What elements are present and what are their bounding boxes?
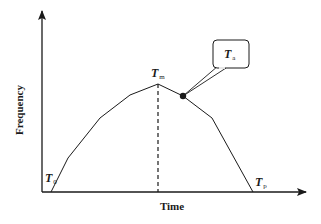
y-axis-label: Frequency: [14, 85, 25, 135]
callout-label: Ta: [224, 48, 235, 62]
frequency-time-diagram: [0, 0, 321, 224]
x-axis-label: Time: [160, 201, 184, 212]
start-time-label: T0: [45, 172, 57, 186]
callout-point-marker: [180, 93, 186, 99]
end-time-label: Tp: [255, 176, 267, 190]
peak-time-label: Tm: [151, 67, 165, 81]
callout-tail: [183, 66, 226, 96]
frequency-curve: [51, 84, 253, 192]
